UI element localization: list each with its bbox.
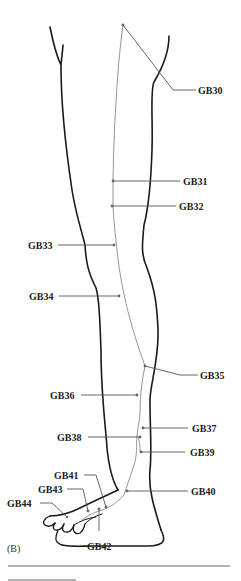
point-gb43	[87, 510, 90, 513]
leader-lines	[40, 25, 198, 531]
leg-diagram: GB30 GB31 GB32 GB33 GB34 GB35 GB36 GB37 …	[0, 0, 241, 581]
point-gb36	[136, 394, 139, 397]
gallbladder-meridian	[82, 25, 145, 520]
label-gb35: GB35	[200, 370, 224, 381]
label-gb43: GB43	[38, 484, 62, 495]
point-gb39	[140, 451, 143, 454]
label-gb41: GB41	[54, 470, 78, 481]
point-gb35	[144, 365, 147, 368]
panel-label: (B)	[7, 543, 20, 555]
label-gb37: GB37	[192, 423, 216, 434]
point-gb44	[66, 516, 68, 518]
point-gb30	[122, 24, 125, 27]
point-gb34	[118, 295, 121, 298]
label-gb34: GB34	[29, 291, 53, 302]
point-gb31	[112, 180, 115, 183]
point-gb40	[126, 490, 129, 493]
point-gb41	[105, 506, 108, 509]
leg-outline	[44, 27, 169, 546]
label-gb32: GB32	[179, 201, 203, 212]
point-labels: GB30 GB31 GB32 GB33 GB34 GB35 GB36 GB37 …	[7, 85, 224, 552]
label-gb31: GB31	[183, 176, 207, 187]
point-gb37	[142, 427, 145, 430]
point-gb38	[139, 436, 142, 439]
label-gb44: GB44	[7, 498, 31, 509]
point-gb32	[111, 205, 114, 208]
label-gb30: GB30	[198, 85, 222, 96]
point-gb33	[113, 244, 116, 247]
label-gb38: GB38	[57, 432, 81, 443]
label-gb33: GB33	[28, 240, 52, 251]
label-gb39: GB39	[190, 447, 214, 458]
label-gb40: GB40	[191, 486, 215, 497]
label-gb36: GB36	[50, 390, 74, 401]
point-gb42	[98, 508, 101, 511]
label-gb42: GB42	[87, 541, 111, 552]
